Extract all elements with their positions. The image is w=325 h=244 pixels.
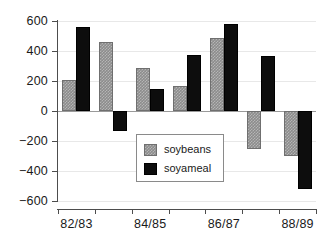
bar-soyameal-87-88 (261, 56, 275, 111)
gridline (58, 201, 316, 202)
bar-soybeans-84-85 (136, 68, 150, 111)
y-tick-label: −400 (0, 165, 48, 178)
legend-item-soybeans: soybeans (144, 140, 223, 159)
bar-soyameal-85-86 (187, 55, 201, 111)
x-tick-label: 86/87 (196, 218, 252, 231)
bar-soybeans-88-89 (284, 111, 298, 156)
soyameal-swatch-icon (144, 163, 157, 175)
bar-soybeans-86-87 (210, 38, 224, 112)
bar-soybeans-82-83 (62, 80, 76, 111)
x-tick-mark (132, 209, 133, 214)
y-tick-label: 600 (0, 15, 48, 28)
x-tick-mark (95, 209, 96, 214)
x-tick-mark (279, 209, 280, 214)
bar-soybeans-87-88 (247, 111, 261, 149)
y-tick-label: −200 (0, 135, 48, 148)
x-tick-mark (58, 209, 59, 214)
bar-soybeans-83-84 (99, 42, 113, 111)
x-tick-label: 82/83 (48, 218, 104, 231)
y-tick-label: 400 (0, 45, 48, 58)
chart-legend: soybeans soyameal (136, 134, 224, 182)
x-tick-label: 84/85 (122, 218, 178, 231)
legend-item-soyameal: soyameal (144, 159, 223, 178)
bar-soyameal-88-89 (298, 111, 312, 189)
soybeans-swatch-icon (144, 144, 157, 156)
y-tick-label: −600 (0, 195, 48, 208)
x-tick-mark (169, 209, 170, 214)
bar-chart: 6004002000−200−400−600 82/8384/8586/8788… (0, 0, 325, 244)
bar-soybeans-85-86 (173, 86, 187, 111)
x-tick-mark (205, 209, 206, 214)
bar-soyameal-86-87 (224, 24, 238, 111)
legend-label-soyameal: soyameal (164, 163, 211, 174)
y-tick-label: 0 (0, 105, 48, 118)
x-tick-mark (242, 209, 243, 214)
bar-soyameal-83-84 (113, 111, 127, 131)
x-tick-label: 88/89 (270, 218, 325, 231)
legend-label-soybeans: soybeans (164, 144, 211, 155)
y-tick-label: 200 (0, 75, 48, 88)
x-tick-mark (316, 209, 317, 214)
bar-soyameal-82-83 (76, 27, 90, 111)
bar-soyameal-84-85 (150, 89, 164, 112)
